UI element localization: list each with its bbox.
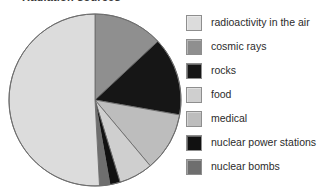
legend-item: nuclear bombs [186, 155, 326, 178]
legend-item-label: nuclear bombs [211, 161, 280, 172]
legend-item-label: food [211, 89, 231, 100]
legend-item: cosmic rays [186, 35, 326, 58]
legend-swatch [186, 39, 202, 55]
chart-legend: radioactivity in the aircosmic raysrocks… [186, 11, 326, 179]
legend-item: nuclear power stations [186, 131, 326, 154]
legend-swatch [186, 159, 202, 175]
legend-item-label: medical [211, 113, 247, 124]
legend-swatch [186, 15, 202, 31]
legend-item: radioactivity in the air [186, 11, 326, 34]
legend-item-label: nuclear power stations [211, 137, 316, 148]
pie-chart-figure: Radiation sources radioactivity in the a… [0, 0, 327, 192]
legend-item-label: radioactivity in the air [211, 17, 310, 28]
legend-swatch [186, 135, 202, 151]
pie-chart-plot [8, 13, 182, 187]
chart-title: Radiation sources [22, 0, 192, 3]
legend-item-label: rocks [211, 65, 236, 76]
pie-chart-svg [8, 13, 182, 187]
legend-item-label: cosmic rays [211, 41, 266, 52]
pie-slice [9, 14, 100, 186]
legend-item: rocks [186, 59, 326, 82]
legend-swatch [186, 111, 202, 127]
legend-item: medical [186, 107, 326, 130]
legend-swatch [186, 63, 202, 79]
legend-swatch [186, 87, 202, 103]
legend-item: food [186, 83, 326, 106]
